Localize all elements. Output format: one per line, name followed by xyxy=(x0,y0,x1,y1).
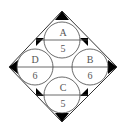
circle-d-number: 6 xyxy=(33,70,38,81)
circle-a-number: 5 xyxy=(61,43,66,54)
diamond-circles-diagram: A 5 B 6 C 5 D 6 xyxy=(0,0,124,133)
circle-a-letter: A xyxy=(59,27,67,38)
circle-d-letter: D xyxy=(31,54,38,65)
diagram-canvas: A 5 B 6 C 5 D 6 xyxy=(0,0,124,133)
circle-b-number: 6 xyxy=(88,70,93,81)
circle-c-number: 5 xyxy=(61,98,66,109)
circle-b-letter: B xyxy=(87,54,94,65)
circle-c-letter: C xyxy=(60,82,67,93)
